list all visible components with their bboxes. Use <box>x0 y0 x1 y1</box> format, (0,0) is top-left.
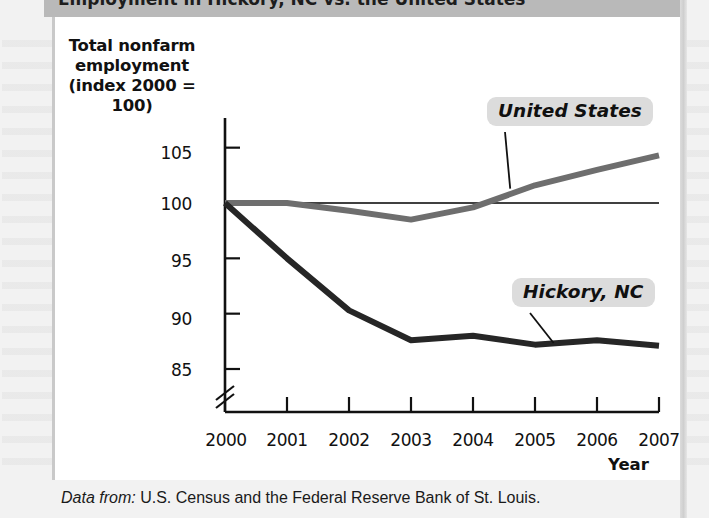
chart-plot-area: Total nonfarm employment (index 2000 = 1… <box>0 0 709 518</box>
callout-leader-lines <box>505 132 554 343</box>
series-layer <box>225 155 659 345</box>
source-prefix: Data from: <box>61 489 136 506</box>
axes-layer <box>216 118 659 412</box>
chart-svg <box>0 0 709 518</box>
series-label-united-states: United States <box>487 97 653 126</box>
series-label-hickory-nc: Hickory, NC <box>512 278 655 307</box>
figure-root: Employment in Hickory, NC vs. the United… <box>0 0 709 518</box>
source-text: U.S. Census and the Federal Reserve Bank… <box>140 489 540 506</box>
source-note: Data from: U.S. Census and the Federal R… <box>61 489 540 507</box>
